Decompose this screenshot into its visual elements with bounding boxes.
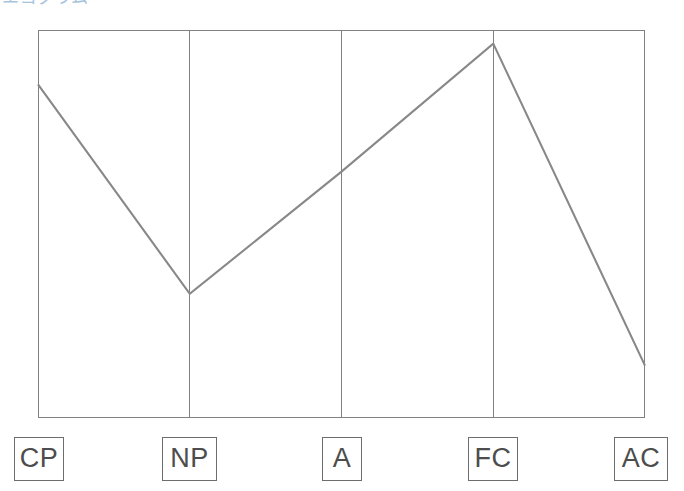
chart-plot-svg (38, 30, 645, 418)
page-title: エゴグラム (2, 0, 89, 8)
axis-label-np: NP (162, 437, 217, 481)
axis-label-text: CP (20, 445, 59, 474)
axis-label-ac: AC (614, 437, 668, 481)
axis-label-text: A (333, 445, 352, 474)
axis-label-text: FC (475, 445, 512, 474)
egogram-chart (38, 30, 645, 418)
axis-label-a: A (322, 437, 362, 481)
axis-label-cp: CP (14, 437, 64, 481)
axis-label-text: NP (170, 445, 209, 474)
axis-label-row: CPNPAFCAC (0, 437, 684, 485)
axis-label-fc: FC (468, 437, 518, 481)
category-divider-lines (190, 30, 494, 418)
axis-label-text: AC (622, 445, 661, 474)
page-heading-clip: エゴグラム (0, 0, 240, 9)
